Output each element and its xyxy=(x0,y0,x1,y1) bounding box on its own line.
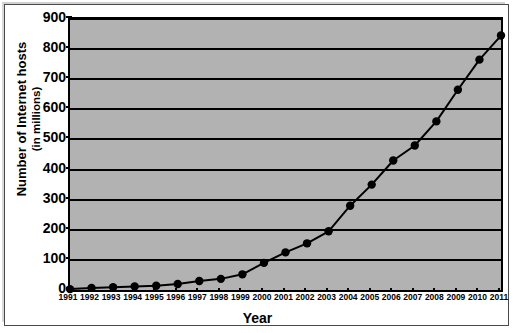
data-point-2002 xyxy=(303,239,311,247)
x-tick-mark-2010 xyxy=(476,288,478,292)
data-point-2005 xyxy=(368,180,376,188)
gridline-900 xyxy=(70,18,501,20)
x-tick-mark-2007 xyxy=(412,288,414,292)
x-axis-title: Year xyxy=(0,310,515,326)
x-tick-mark-2002 xyxy=(304,288,306,292)
gridline-200 xyxy=(70,229,501,231)
x-tick-label-2011: 2011 xyxy=(482,292,515,302)
y-axis-title-line1: Number of Internet hosts xyxy=(14,42,29,197)
data-point-2006 xyxy=(389,156,397,164)
gridline-800 xyxy=(70,48,501,50)
x-tick-mark-1992 xyxy=(89,288,91,292)
data-point-1997 xyxy=(195,277,203,285)
gridline-700 xyxy=(70,78,501,80)
x-tick-mark-2003 xyxy=(326,288,328,292)
y-axis-title: Number of Internet hosts (in millions) xyxy=(14,4,44,234)
x-tick-mark-1998 xyxy=(218,288,220,292)
gridline-100 xyxy=(70,259,501,261)
x-tick-mark-2001 xyxy=(283,288,285,292)
gridline-300 xyxy=(70,199,501,201)
data-point-2001 xyxy=(281,248,289,256)
x-tick-mark-1994 xyxy=(132,288,134,292)
x-tick-mark-1996 xyxy=(175,288,177,292)
x-tick-mark-1997 xyxy=(196,288,198,292)
y-tick-label-100: 100 xyxy=(18,251,66,265)
x-tick-mark-1993 xyxy=(110,288,112,292)
data-point-1999 xyxy=(238,270,246,278)
x-tick-mark-1991 xyxy=(67,288,69,292)
x-tick-mark-2009 xyxy=(455,288,457,292)
data-point-2009 xyxy=(454,86,462,94)
data-point-1996 xyxy=(174,280,182,288)
gridline-400 xyxy=(70,169,501,171)
gridline-600 xyxy=(70,108,501,110)
data-point-2007 xyxy=(411,141,419,149)
x-tick-mark-2011 xyxy=(498,288,500,292)
data-point-2004 xyxy=(346,201,354,209)
gridline-500 xyxy=(70,138,501,140)
data-point-2010 xyxy=(475,55,483,63)
x-axis: 1991199219931994199519961997199819992000… xyxy=(68,292,499,306)
x-tick-mark-2006 xyxy=(390,288,392,292)
x-tick-mark-2008 xyxy=(433,288,435,292)
data-point-1998 xyxy=(217,275,225,283)
data-series-line xyxy=(70,19,501,290)
x-tick-mark-1999 xyxy=(239,288,241,292)
x-tick-mark-1995 xyxy=(153,288,155,292)
x-tick-mark-2005 xyxy=(369,288,371,292)
plot-area xyxy=(68,17,503,292)
x-tick-mark-2000 xyxy=(261,288,263,292)
y-axis-title-line2: (in millions) xyxy=(29,4,44,234)
data-point-2011 xyxy=(497,31,505,39)
x-tick-mark-2004 xyxy=(347,288,349,292)
data-point-2008 xyxy=(432,117,440,125)
chart-figure: 0100200300400500600700800900 Number of I… xyxy=(0,0,515,333)
